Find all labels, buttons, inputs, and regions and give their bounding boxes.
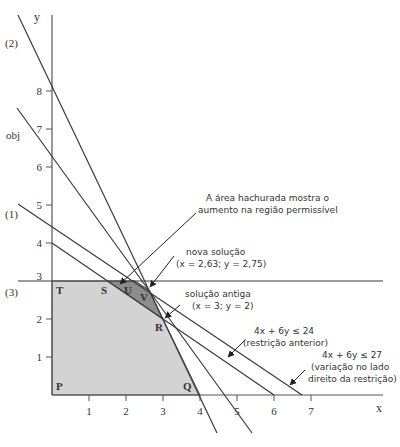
x-tick-label: 5 — [234, 405, 240, 417]
x-axis-label: x — [376, 401, 382, 415]
previous-constraint-note: (restrição anterior) — [243, 338, 328, 348]
x-tick-label: 1 — [86, 405, 92, 417]
y-tick-label: 7 — [37, 123, 43, 135]
old-solution-values: (x = 3; y = 2) — [192, 301, 254, 311]
lp-graph: y x 1 2 3 4 5 6 7 8 1 2 3 4 5 6 7 (2) ob… — [0, 0, 400, 447]
new-solution-title: nova solução — [186, 247, 246, 257]
y-tick-label: 3 — [37, 270, 43, 282]
vertex-label-P: P — [56, 380, 63, 392]
objective-label: obj — [6, 129, 20, 141]
rhs-change-arrow — [290, 370, 305, 385]
y-tick-label: 6 — [37, 161, 43, 173]
x-tick-label: 3 — [160, 405, 166, 417]
previous-constraint-eq: 4x + 6y ≤ 24 — [254, 326, 314, 336]
original-feasible-region — [52, 281, 200, 395]
y-tick-label: 1 — [37, 351, 43, 363]
vertex-label-R: R — [155, 321, 164, 333]
vertex-label-V: V — [140, 291, 148, 303]
vertex-label-Q: Q — [183, 380, 192, 392]
y-axis-label: y — [34, 10, 40, 24]
y-tick-label: 8 — [37, 85, 43, 97]
vertex-label-U: U — [124, 284, 132, 296]
rhs-change-eq: 4x + 6y ≤ 27 — [322, 350, 382, 360]
vertex-label-S: S — [101, 284, 107, 296]
shaded-area-arrow — [120, 213, 196, 284]
x-tick-label: 2 — [123, 405, 129, 417]
y-tick-label: 5 — [37, 199, 43, 211]
new-solution-arrow — [150, 256, 174, 287]
x-tick-label: 6 — [271, 405, 277, 417]
constraint-2-label: (2) — [5, 37, 18, 50]
new-solution-values: (x = 2,63; y = 2,75) — [176, 259, 266, 269]
vertex-label-T: T — [56, 284, 64, 296]
x-tick-label: 4 — [197, 405, 203, 417]
constraint-1-label: (1) — [5, 208, 18, 221]
y-tick-label: 2 — [37, 313, 43, 325]
old-solution-title: solução antiga — [185, 289, 251, 299]
y-tick-label: 4 — [37, 237, 43, 249]
x-tick-label: 7 — [308, 405, 314, 417]
rhs-change-note-line2: direito da restrição) — [308, 374, 397, 384]
shaded-area-note-line1: A área hachurada mostra o — [206, 193, 329, 203]
shaded-area-note-line2: aumento na região permissível — [198, 205, 338, 215]
rhs-change-note-line1: (variação no lado — [311, 362, 390, 372]
constraint-3-label: (3) — [5, 286, 18, 299]
